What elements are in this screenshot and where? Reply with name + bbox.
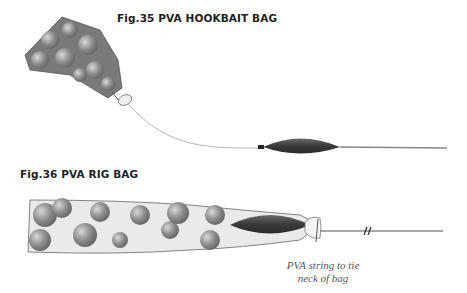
main-line-fig36 [320, 227, 443, 235]
caption-line-2: neck of bag [278, 272, 368, 285]
rig-bag-illustration [28, 198, 321, 253]
diagram-canvas [0, 0, 467, 293]
pva-string-caption: PVA string to tie neck of bag [278, 259, 368, 285]
caption-line-1: PVA string to tie [278, 259, 368, 272]
hookbait-bag-illustration [25, 17, 133, 107]
lead-weight-fig35 [258, 139, 447, 154]
hooklink-line [128, 104, 262, 148]
